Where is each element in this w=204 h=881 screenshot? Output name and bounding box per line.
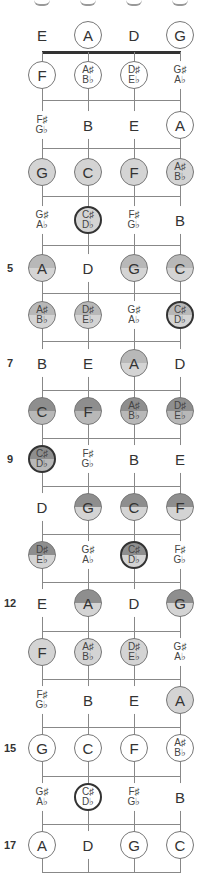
note-name: B <box>37 356 47 371</box>
note-name: F <box>175 500 184 515</box>
note-D-fret-9: B <box>120 445 148 473</box>
note-name: E <box>129 693 139 708</box>
note-A-fret-16: C♯D♭ <box>74 783 102 811</box>
note-A-fret-6: D♯E♭ <box>74 301 102 329</box>
cut-off-note-top <box>126 0 142 6</box>
note-D-fret-1: D♯E♭ <box>120 61 148 89</box>
note-G-fret-1: G♯A♭ <box>166 61 194 89</box>
note-A-fret-4: C♯D♭ <box>74 206 102 234</box>
note-D-fret-5: G <box>120 254 148 282</box>
note-name: E <box>175 452 185 467</box>
fret-number-label: 9 <box>7 453 13 465</box>
note-D-fret-16: F♯G♭ <box>120 783 148 811</box>
note-E-fret-13: F <box>28 638 56 666</box>
note-A-fret-13: A♯B♭ <box>74 638 102 666</box>
note-D-fret-3: F <box>120 158 148 186</box>
note-E-fret-8: C <box>28 397 56 425</box>
note-A-fret-8: F <box>74 397 102 425</box>
note-enharmonic-name: B♭ <box>82 652 94 662</box>
fret-number-label: 17 <box>4 839 16 851</box>
note-enharmonic-name: B♭ <box>174 748 186 758</box>
fret-line <box>42 486 181 487</box>
fret-line <box>42 390 181 391</box>
note-G-fret-5: C <box>166 254 194 282</box>
fret-number-label: 12 <box>4 597 16 609</box>
note-G-fret-10: F <box>166 493 194 521</box>
note-G-fret-8: D♯E♭ <box>166 397 194 425</box>
note-D-fret-7: A <box>120 349 148 377</box>
note-name: A <box>37 261 47 276</box>
note-enharmonic-name: G♭ <box>36 125 49 135</box>
note-name: B <box>175 213 185 228</box>
note-name: A <box>129 356 139 371</box>
note-E-fret-14: F♯G♭ <box>28 686 56 714</box>
note-enharmonic-name: E♭ <box>128 75 140 85</box>
note-name: C <box>83 165 94 180</box>
note-D-fret-15: F <box>120 734 148 762</box>
note-name: C <box>37 404 48 419</box>
note-enharmonic-name: A♭ <box>82 555 94 565</box>
note-D-fret-4: F♯G♭ <box>120 206 148 234</box>
note-name: F <box>37 645 46 660</box>
note-enharmonic-name: E♭ <box>174 411 186 421</box>
note-enharmonic-name: B♭ <box>36 315 48 325</box>
note-A-fret-2: B <box>74 111 102 139</box>
note-A-fret-12: A <box>74 589 102 617</box>
note-name: E <box>37 596 47 611</box>
note-G-fret-2: A <box>166 111 194 139</box>
note-G-fret-16: B <box>166 783 194 811</box>
note-G-fret-11: F♯G♭ <box>166 541 194 569</box>
note-name: G <box>82 500 94 515</box>
note-G-fret-9: E <box>166 445 194 473</box>
note-enharmonic-name: D♭ <box>128 555 140 565</box>
note-name: F <box>129 741 138 756</box>
note-name: D <box>129 28 140 43</box>
note-name: D <box>83 261 94 276</box>
note-A-fret-15: C <box>74 734 102 762</box>
note-name: F <box>129 165 138 180</box>
note-A-fret-10: G <box>74 493 102 521</box>
note-G-fret-17: C <box>166 831 194 859</box>
cut-off-note-top <box>80 0 96 6</box>
note-D-fret-0: D <box>120 21 148 49</box>
note-enharmonic-name: D♭ <box>82 797 94 807</box>
note-name: G <box>174 28 186 43</box>
fret-line <box>42 872 181 873</box>
note-enharmonic-name: G♭ <box>82 459 95 469</box>
note-E-fret-9: C♯D♭ <box>28 445 56 473</box>
note-name: G <box>128 261 140 276</box>
fret-line <box>42 196 181 197</box>
note-enharmonic-name: A♭ <box>128 315 140 325</box>
note-D-fret-10: C <box>120 493 148 521</box>
fret-line <box>42 727 181 728</box>
note-G-fret-14: A <box>166 686 194 714</box>
note-D-fret-14: E <box>120 686 148 714</box>
fret-line <box>42 341 181 342</box>
note-name: B <box>83 118 93 133</box>
fret-line <box>42 582 181 583</box>
note-enharmonic-name: A♭ <box>36 220 48 230</box>
note-G-fret-12: G <box>166 589 194 617</box>
note-A-fret-3: C <box>74 158 102 186</box>
nut <box>42 51 181 54</box>
note-enharmonic-name: B♭ <box>174 172 186 182</box>
note-enharmonic-name: G♭ <box>174 555 187 565</box>
note-E-fret-6: A♯B♭ <box>28 301 56 329</box>
note-name: D <box>83 838 94 853</box>
note-name: C <box>175 838 186 853</box>
note-enharmonic-name: G♭ <box>128 797 141 807</box>
note-E-fret-11: D♯E♭ <box>28 541 56 569</box>
note-A-fret-9: F♯G♭ <box>74 445 102 473</box>
note-A-fret-11: G♯A♭ <box>74 541 102 569</box>
note-name: B <box>129 452 139 467</box>
note-enharmonic-name: A♭ <box>174 75 186 85</box>
note-name: A <box>83 28 93 43</box>
note-D-fret-11: C♯D♭ <box>120 541 148 569</box>
cut-off-note-top <box>172 0 188 6</box>
note-name: G <box>36 741 48 756</box>
note-name: C <box>83 741 94 756</box>
note-G-fret-4: B <box>166 206 194 234</box>
note-G-fret-15: A♯B♭ <box>166 734 194 762</box>
note-A-fret-14: B <box>74 686 102 714</box>
fret-line <box>42 245 181 246</box>
